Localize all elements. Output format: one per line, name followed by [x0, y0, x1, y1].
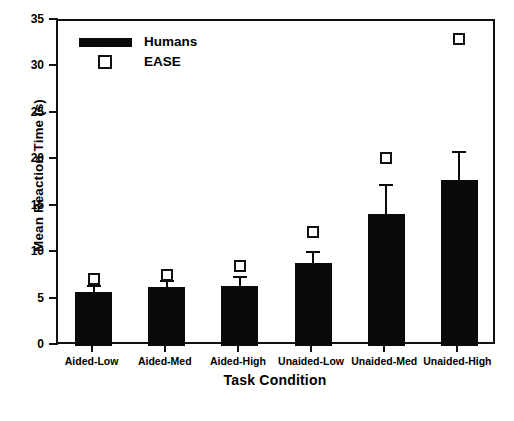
y-tick-label: 30 [0, 59, 44, 71]
ease-marker-unaided-high [453, 33, 465, 45]
filled-bar-swatch-icon [79, 38, 132, 47]
reaction-time-bar-chart: Mean Reaction Time (s) Task Condition 05… [0, 0, 514, 421]
legend-item-humans: Humans [79, 33, 229, 53]
error-bar-cap [306, 251, 320, 253]
y-tick-label: 5 [0, 292, 44, 304]
y-tick-label: 15 [0, 199, 44, 211]
legend-label-humans: Humans [144, 34, 197, 49]
chart-legend: Humans EASE [79, 33, 229, 73]
error-bar-unaided-high [458, 151, 460, 180]
legend-item-ease: EASE [79, 53, 229, 73]
bar-aided-med [148, 287, 185, 346]
y-axis-title: Mean Reaction Time (s) [31, 56, 46, 296]
x-tick-label-aided-high: Aided-High [201, 355, 274, 367]
ease-marker-aided-med [161, 269, 173, 281]
y-tick-label: 20 [0, 152, 44, 164]
bar-aided-low [75, 292, 112, 346]
x-tick-label-aided-low: Aided-Low [55, 355, 128, 367]
bar-unaided-med [368, 214, 405, 346]
bar-aided-high [221, 286, 258, 346]
x-tick-label-unaided-high: Unaided-High [421, 355, 494, 367]
error-bar-cap [233, 276, 247, 278]
ease-marker-aided-high [234, 260, 246, 272]
bar-unaided-high [441, 180, 478, 346]
y-tick-label: 0 [0, 338, 44, 350]
ease-marker-unaided-low [307, 226, 319, 238]
error-bar-cap [379, 184, 393, 186]
ease-marker-unaided-med [380, 152, 392, 164]
ease-marker-aided-low [88, 273, 100, 285]
x-tick-label-aided-med: Aided-Med [128, 355, 201, 367]
error-bar-unaided-med [385, 184, 387, 214]
x-axis-title: Task Condition [55, 372, 495, 388]
y-tick-label: 35 [0, 13, 44, 25]
legend-label-ease: EASE [144, 54, 181, 69]
x-tick-label-unaided-low: Unaided-Low [275, 355, 348, 367]
bar-unaided-low [295, 263, 332, 346]
error-bar-cap [452, 151, 466, 153]
y-tick-label: 25 [0, 106, 44, 118]
y-tick-label: 10 [0, 245, 44, 257]
open-square-swatch-icon [98, 55, 112, 69]
x-tick-label-unaided-med: Unaided-Med [348, 355, 421, 367]
